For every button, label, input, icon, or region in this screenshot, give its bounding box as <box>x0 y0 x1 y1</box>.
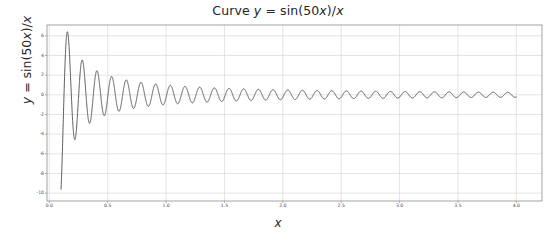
y-tick-label: -8 <box>39 171 44 176</box>
y-tick-label: -10 <box>36 190 44 195</box>
plot-background <box>47 25 542 201</box>
y-tick-labels: 6420-2-4-6-8-10 <box>36 33 47 195</box>
figure-canvas: Curve y = sin(50x)/x y = sin(50x)/x 6420… <box>0 0 556 241</box>
x-tick-label: 3.0 <box>396 203 403 208</box>
x-tick-label: 2.5 <box>338 203 345 208</box>
x-tick-label: 0.0 <box>46 203 53 208</box>
x-axis-label: x <box>0 216 556 230</box>
y-tick-label: 0 <box>41 92 44 97</box>
y-tick-label: 4 <box>41 53 44 58</box>
y-tick-label: 2 <box>41 72 44 77</box>
x-tick-label: 0.5 <box>104 203 111 208</box>
y-tick-label: -6 <box>39 151 44 156</box>
x-tick-label: 2.0 <box>279 203 286 208</box>
x-tick-label: 1.0 <box>162 203 169 208</box>
plot-area: 6420-2-4-6-8-10 0.00.51.01.52.02.53.03.5… <box>0 0 556 241</box>
x-tick-label: 1.5 <box>221 203 228 208</box>
y-tick-label: -4 <box>39 131 44 136</box>
y-tick-label: 6 <box>41 33 44 38</box>
x-tick-labels: 0.00.51.01.52.02.53.03.54.0 <box>46 201 520 208</box>
y-tick-label: -2 <box>39 112 44 117</box>
x-tick-label: 4.0 <box>513 203 520 208</box>
xlabel-text: x <box>274 216 281 230</box>
x-tick-label: 3.5 <box>454 203 461 208</box>
